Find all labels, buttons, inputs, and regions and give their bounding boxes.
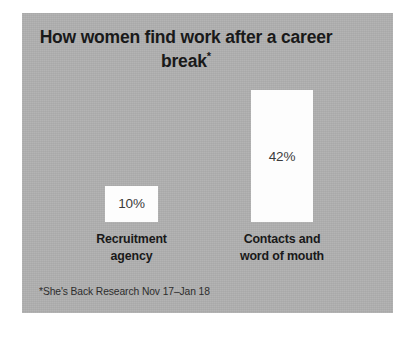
bar-label-line-2: word of mouth xyxy=(240,249,324,263)
chart-canvas: How women find work after a career break… xyxy=(0,0,416,337)
bar-label-line-2: agency xyxy=(111,249,153,263)
bar-label-line-1: Contacts and xyxy=(244,232,321,246)
bar-value-contacts-and-word-of-mouth: 42% xyxy=(251,149,313,164)
bar-value-recruitment-agency: 10% xyxy=(105,196,158,211)
bar-label-contacts-and-word-of-mouth: Contacts andword of mouth xyxy=(215,231,349,264)
chart-source-footnote: *She's Back Research Nov 17–Jan 18 xyxy=(39,286,210,297)
bar-label-recruitment-agency: Recruitmentagency xyxy=(71,231,192,264)
bar-label-line-1: Recruitment xyxy=(96,232,167,246)
